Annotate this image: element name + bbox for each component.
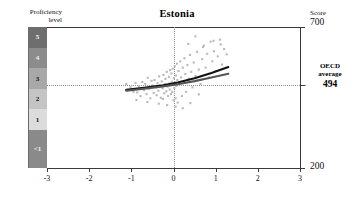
scatter-point xyxy=(189,54,191,56)
scatter-point xyxy=(125,83,127,85)
scatter-point xyxy=(172,99,174,101)
scatter-point xyxy=(219,39,221,41)
scatter-point xyxy=(198,93,200,95)
y-axis-tick xyxy=(300,27,305,28)
x-axis-tick xyxy=(89,168,90,172)
scatter-point xyxy=(199,83,201,85)
scatter-point xyxy=(138,85,140,87)
scatter-point xyxy=(163,92,165,94)
proficiency-band-4: 4 xyxy=(28,48,47,69)
scatter-point xyxy=(129,86,131,88)
scatter-point xyxy=(173,77,175,79)
scatter-point xyxy=(185,91,187,93)
proficiency-band-3: 3 xyxy=(28,68,47,88)
x-axis-tick xyxy=(216,168,217,172)
proficiency-band-label: 5 xyxy=(36,33,40,41)
scatter-point xyxy=(211,60,213,62)
scatter-point xyxy=(162,98,164,100)
scatter-point xyxy=(169,89,171,91)
proficiency-band-5: 5 xyxy=(28,27,47,48)
scatter-point xyxy=(161,80,163,82)
axis-right-line xyxy=(300,27,301,168)
scatter-point xyxy=(176,79,178,81)
scatter-point xyxy=(189,102,191,104)
scatter-point xyxy=(202,46,204,48)
x-axis-tick xyxy=(131,168,132,172)
proficiency-band-below-1: <1 xyxy=(28,130,47,168)
scatter-point xyxy=(164,78,166,80)
scatter-point xyxy=(160,97,162,99)
scatter-point xyxy=(136,91,138,93)
scatter-point xyxy=(170,72,172,74)
scatter-point xyxy=(147,77,149,79)
scatter-point xyxy=(177,102,179,104)
x-axis-tick-label: 3 xyxy=(290,174,310,183)
proficiency-band-1: 1 xyxy=(28,109,47,130)
y-axis-tick xyxy=(300,168,305,169)
scatter-point xyxy=(178,70,180,72)
proficiency-band-2: 2 xyxy=(28,89,47,110)
scatter-point xyxy=(187,43,189,45)
scatter-point xyxy=(162,74,164,76)
scatter-point xyxy=(168,76,170,78)
scatter-point xyxy=(217,55,219,57)
scatter-point xyxy=(210,41,212,43)
plot-area xyxy=(47,27,300,168)
scatter-point xyxy=(146,101,148,103)
scatter-point xyxy=(206,53,208,55)
scatter-point xyxy=(175,97,177,99)
scatter-point xyxy=(194,35,196,37)
scatter-point xyxy=(198,69,200,71)
scatter-point xyxy=(145,93,147,95)
x-axis-tick-label: -3 xyxy=(37,174,57,183)
oecd-average-line2: average xyxy=(306,70,354,78)
scatter-point xyxy=(166,71,168,73)
scatter-point xyxy=(226,53,228,55)
scatter-point xyxy=(167,95,169,97)
scatter-point xyxy=(158,103,160,105)
scatter-point xyxy=(171,91,173,93)
x-axis-tick xyxy=(258,168,259,172)
scatter-point xyxy=(144,83,146,85)
x-axis-tick xyxy=(47,168,48,172)
scatter-point xyxy=(193,61,195,63)
x-axis-tick-label: 1 xyxy=(206,174,226,183)
proficiency-band-label: 4 xyxy=(36,54,40,62)
scatter-point xyxy=(175,105,177,107)
x-axis-tick-label: 0 xyxy=(164,174,184,183)
band-column-left-edge xyxy=(28,27,29,168)
scatter-point xyxy=(176,63,178,65)
oecd-average-annotation: OECD average 494 xyxy=(306,62,354,89)
proficiency-band-column: 54321<1 xyxy=(28,27,47,168)
scatter-point xyxy=(173,87,175,89)
scatter-point xyxy=(140,95,142,97)
y-axis-tick xyxy=(300,85,305,86)
scatter-point xyxy=(175,74,177,76)
scatter-point xyxy=(223,48,225,50)
scatter-point xyxy=(181,95,183,97)
scatter-point xyxy=(153,92,155,94)
scatter-point xyxy=(190,71,192,73)
scatter-point xyxy=(183,57,185,59)
score-axis-max-label: 700 xyxy=(310,18,324,28)
scatter-point xyxy=(156,82,158,84)
scatter-point xyxy=(180,76,182,78)
scatter-point xyxy=(213,50,215,52)
scatter-point xyxy=(184,73,186,75)
proficiency-band-label: 3 xyxy=(36,75,40,83)
scatter-point xyxy=(170,93,172,95)
x-axis-tick-label: 2 xyxy=(248,174,268,183)
scatter-point xyxy=(135,82,137,84)
scatter-point xyxy=(165,90,167,92)
proficiency-band-label: 2 xyxy=(36,95,40,103)
scatter-point xyxy=(213,40,215,42)
proficiency-band-label: 1 xyxy=(36,116,40,124)
scatter-point xyxy=(132,91,134,93)
scatter-point xyxy=(166,104,168,106)
scatter-point xyxy=(141,81,143,83)
scatter-point xyxy=(153,79,155,81)
scatter-point xyxy=(182,67,184,69)
scatter-point xyxy=(196,51,198,53)
oecd-average-line1: OECD xyxy=(306,62,354,70)
score-axis-min-label: 200 xyxy=(310,162,324,172)
